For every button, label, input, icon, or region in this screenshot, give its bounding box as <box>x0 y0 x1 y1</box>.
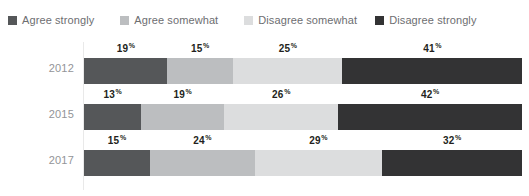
bar-segment-disagree-strongly[interactable] <box>342 58 522 84</box>
row-label-2015: 2015 <box>0 108 74 120</box>
legend-label-agree-strongly: Agree strongly <box>22 14 94 26</box>
legend-item-disagree-strongly[interactable]: Disagree strongly <box>375 12 476 28</box>
legend-swatch-disagree-somewhat <box>244 16 253 25</box>
value-label: 25% <box>233 40 343 56</box>
value-label: 19% <box>84 40 167 56</box>
value-labels-2012: 19% 15% 25% 41% <box>84 40 522 56</box>
legend-item-agree-somewhat[interactable]: Agree somewhat <box>120 12 218 28</box>
legend-item-agree-strongly[interactable]: Agree strongly <box>8 12 94 28</box>
bar-2015 <box>84 104 522 130</box>
value-label: 15% <box>167 40 233 56</box>
bar-segment-disagree-strongly[interactable] <box>338 104 522 130</box>
bar-segment-disagree-strongly[interactable] <box>382 150 522 176</box>
chart-row-2017: 15% 24% 29% 32% 2017 <box>0 132 529 178</box>
chart-row-2015: 13% 19% 26% 42% 2015 <box>0 86 529 132</box>
legend-label-disagree-somewhat: Disagree somewhat <box>258 14 357 26</box>
legend-swatch-agree-somewhat <box>120 16 129 25</box>
chart-legend: Agree strongly Agree somewhat Disagree s… <box>8 12 521 28</box>
value-label: 41% <box>342 40 522 56</box>
value-labels-2017: 15% 24% 29% 32% <box>84 132 522 148</box>
value-label: 29% <box>255 132 382 148</box>
value-label: 42% <box>338 86 522 102</box>
chart-row-2012: 19% 15% 25% 41% 2012 <box>0 40 529 86</box>
value-label: 19% <box>141 86 224 102</box>
value-label: 13% <box>84 86 141 102</box>
bar-segment-agree-strongly[interactable] <box>84 104 141 130</box>
legend-swatch-disagree-strongly <box>375 16 384 25</box>
bar-segment-agree-somewhat[interactable] <box>167 58 233 84</box>
bar-segment-agree-strongly[interactable] <box>84 150 150 176</box>
value-label: 24% <box>150 132 255 148</box>
legend-label-agree-somewhat: Agree somewhat <box>134 14 218 26</box>
bar-segment-disagree-somewhat[interactable] <box>255 150 382 176</box>
legend-label-disagree-strongly: Disagree strongly <box>389 14 476 26</box>
bar-segment-agree-somewhat[interactable] <box>141 104 224 130</box>
legend-item-disagree-somewhat[interactable]: Disagree somewhat <box>244 12 357 28</box>
bar-segment-disagree-somewhat[interactable] <box>233 58 343 84</box>
row-label-2012: 2012 <box>0 62 74 74</box>
plot-area: 19% 15% 25% 41% 2012 13% 19% 26% 42% 201… <box>0 38 529 190</box>
value-labels-2015: 13% 19% 26% 42% <box>84 86 522 102</box>
bar-segment-agree-strongly[interactable] <box>84 58 167 84</box>
bar-segment-agree-somewhat[interactable] <box>150 150 255 176</box>
legend-swatch-agree-strongly <box>8 16 17 25</box>
row-label-2017: 2017 <box>0 154 74 166</box>
value-label: 15% <box>84 132 150 148</box>
bar-2017 <box>84 150 522 176</box>
stacked-bar-chart: Agree strongly Agree somewhat Disagree s… <box>0 0 529 196</box>
value-label: 32% <box>382 132 522 148</box>
bar-2012 <box>84 58 522 84</box>
bar-segment-disagree-somewhat[interactable] <box>224 104 338 130</box>
value-label: 26% <box>224 86 338 102</box>
